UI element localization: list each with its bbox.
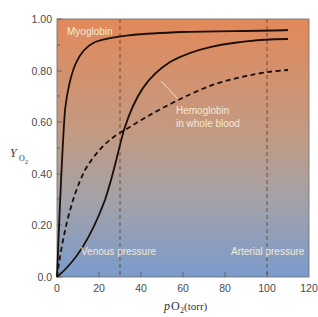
x-axis-title: p O 2 (torr) <box>163 299 208 315</box>
x-tick-label: 80 <box>219 282 231 294</box>
plot-area <box>57 19 309 277</box>
y-tick-label: 0.80 <box>32 65 53 77</box>
svg-text:2: 2 <box>25 159 28 165</box>
oxygen-binding-chart: 0.0 0.20 0.40 0.60 0.80 1.00 0 20 40 60 … <box>0 0 318 317</box>
hemoglobin-label-line1: Hemoglobin <box>176 105 229 116</box>
x-tick-label: 120 <box>300 282 318 294</box>
arterial-pressure-label: Arterial pressure <box>231 246 305 257</box>
x-tick-label: 60 <box>177 282 189 294</box>
svg-text:p: p <box>163 299 170 313</box>
myoglobin-label: Myoglobin <box>67 26 113 37</box>
y-tick-label: 0.40 <box>32 168 53 180</box>
venous-pressure-label: Venous pressure <box>81 246 156 257</box>
y-tick-label: 0.60 <box>32 116 53 128</box>
x-tick-label: 0 <box>54 282 60 294</box>
x-tick-label: 20 <box>93 282 105 294</box>
y-tick-label: 0.20 <box>32 219 53 231</box>
x-tick-label: 40 <box>135 282 147 294</box>
y-tick-label: 0.0 <box>37 271 52 283</box>
svg-text:(torr): (torr) <box>184 300 208 313</box>
x-tick-label: 100 <box>258 282 276 294</box>
hemoglobin-label-line2: in whole blood <box>176 118 240 129</box>
y-tick-label: 1.00 <box>32 13 53 25</box>
y-axis-title: Y O 2 <box>10 146 28 165</box>
svg-text:Y: Y <box>10 146 18 160</box>
svg-text:O: O <box>171 299 180 313</box>
